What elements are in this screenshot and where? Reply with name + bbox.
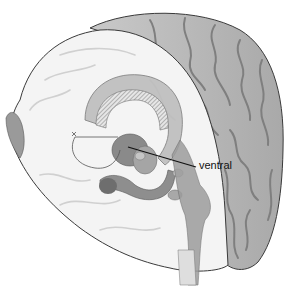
label-ventral: ventral	[199, 160, 232, 171]
brain-illustration	[0, 0, 290, 289]
